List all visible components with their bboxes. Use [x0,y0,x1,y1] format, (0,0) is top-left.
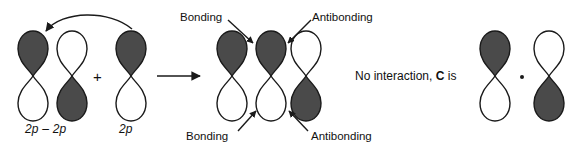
product-orbital-1 [217,31,247,121]
no-interaction-text-before: No interaction, [355,69,436,83]
reactant-orbital-2 [57,31,87,121]
product-orbital-3 [291,31,321,121]
dot-separator [520,75,524,79]
reactant-group-label: 2p – 2p [25,123,66,135]
no-interaction-text-after: is [444,69,456,83]
bonding-top-label: Bonding [180,12,222,24]
product-orbital-2 [256,31,286,121]
plus-sign: + [93,69,102,84]
reactant-orbital-3 [116,31,146,121]
noninteracting-orbital-2 [534,31,564,121]
reactant-single-label: 2p [119,123,133,135]
no-interaction-text: No interaction, C is [355,70,456,82]
orbital-diagram-svg [0,0,576,152]
curved-electron-arrow [46,15,132,31]
bonding-bottom-label: Bonding [186,131,228,143]
antibonding-bottom-label: Antibonding [311,131,372,143]
antibonding-top-label: Antibonding [312,12,373,24]
orbital-interaction-figure: + 2p – 2p 2p Bonding Antibonding Bonding… [0,0,576,152]
reactant-orbital-1 [18,31,48,121]
noninteracting-orbital-1 [480,31,510,121]
